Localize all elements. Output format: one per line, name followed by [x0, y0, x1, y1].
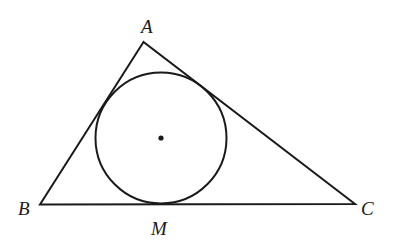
- vertex-label-b: B: [18, 198, 30, 219]
- tangent-point-label-m: M: [150, 218, 168, 239]
- diagram-canvas: A B C M: [0, 0, 397, 242]
- vertex-label-c: C: [361, 198, 374, 219]
- triangle-abc: [40, 42, 355, 205]
- incenter-point: [158, 135, 163, 140]
- triangle-incircle-figure: A B C M: [0, 0, 397, 242]
- vertex-label-a: A: [139, 16, 153, 37]
